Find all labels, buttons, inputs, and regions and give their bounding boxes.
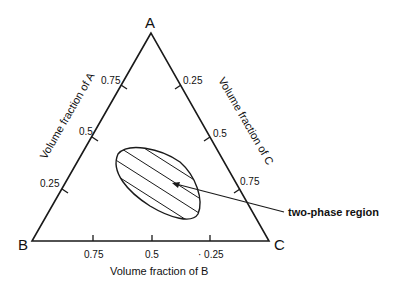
two-phase-region [100,120,210,235]
ternary-triangle [32,33,269,241]
right-tick-label-2: 0.75 [240,176,260,187]
ternary-diagram: A B C 0.75 0.5 0.25 Volume fraction of A… [0,0,395,289]
bottom-axis-ticks [93,235,210,241]
bottom-tick-label-0: 0.75 [84,249,104,260]
annotation-arrow [172,182,284,212]
bottom-axis-label: Volume fraction of B [110,265,208,277]
right-tick-label-0: 0.25 [183,75,203,86]
left-axis-label: Volume fraction of A [37,70,97,161]
right-tick-label-1: 0.5 [213,128,227,139]
left-tick-label-1: 0.5 [79,126,93,137]
vertex-b-label: B [18,236,28,253]
bottom-tick-label-1: 0.5 [145,249,159,260]
left-tick-label-2: 0.25 [40,178,60,189]
vertex-a-label: A [145,14,155,31]
right-axis-label: Volume fraction of C [216,75,276,167]
left-tick-label-0: 0.75 [101,75,121,86]
bottom-tick-label-2: · 0.25 [198,249,224,260]
annotation-label: two-phase region [288,206,379,218]
vertex-c-label: C [274,236,285,253]
